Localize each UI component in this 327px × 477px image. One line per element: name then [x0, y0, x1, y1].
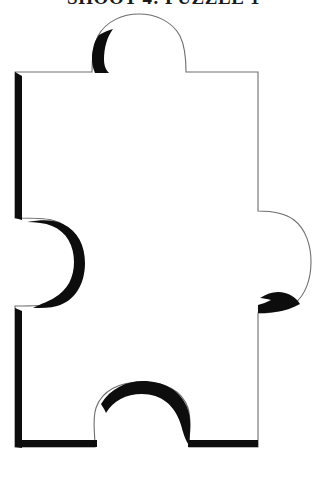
shadow-bottom-right-run: [188, 440, 258, 447]
shadow-bottom-left-run: [15, 440, 97, 447]
puzzle-piece-svg: [0, 8, 327, 477]
puzzle-piece-figure: [0, 8, 327, 477]
worksheet-page: SHOOT 4: PUZZLE 1: [0, 0, 327, 477]
shadow-left-lower: [15, 308, 22, 448]
shadow-left-upper: [15, 72, 22, 220]
puzzle-piece-outline: [15, 14, 311, 447]
